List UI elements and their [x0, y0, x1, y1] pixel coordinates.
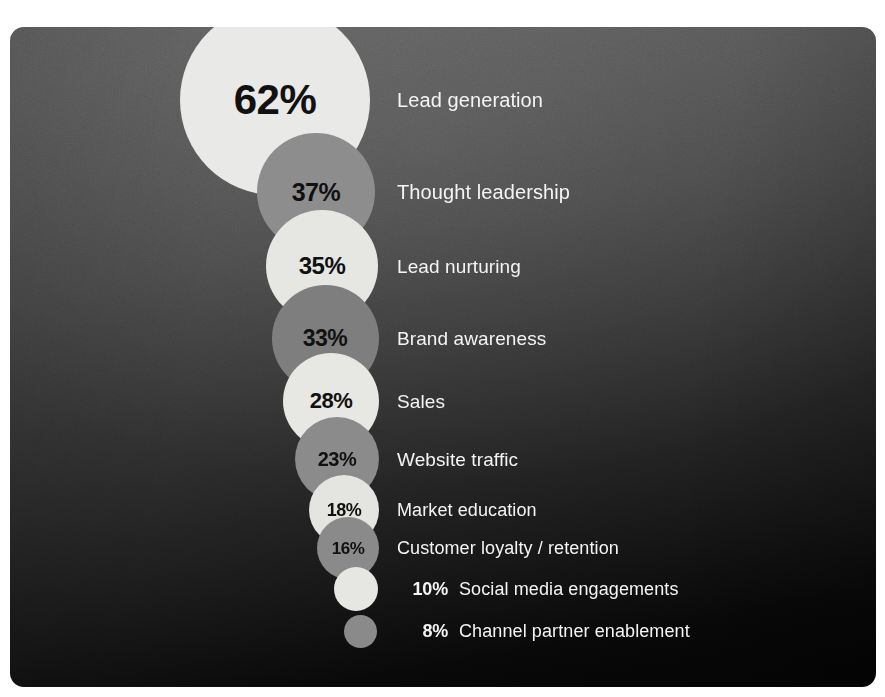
- bubble-value-label: 28%: [310, 390, 353, 412]
- chart-panel: 62%Lead generation37%Thought leadership3…: [10, 27, 876, 687]
- bubble-value-label: 37%: [292, 180, 341, 205]
- category-label: Market education: [397, 501, 537, 519]
- category-label: Website traffic: [397, 450, 518, 469]
- category-label: Channel partner enablement: [459, 622, 690, 640]
- category-label: Lead generation: [397, 90, 543, 110]
- bubble: [344, 615, 377, 648]
- category-label: Brand awareness: [397, 329, 546, 348]
- chart-screenshot: 62%Lead generation37%Thought leadership3…: [0, 0, 885, 697]
- bubble-value-label: 33%: [303, 327, 348, 350]
- category-label: Social media engagements: [459, 580, 679, 598]
- bubble-value-label: 35%: [299, 254, 346, 278]
- bubble-value-label-outside: 10%: [413, 580, 448, 598]
- bubble: [334, 567, 378, 611]
- bubble-value-label: 16%: [332, 540, 365, 557]
- bubble-value-label: 62%: [234, 79, 317, 121]
- category-label: Customer loyalty / retention: [397, 539, 619, 557]
- category-label: Thought leadership: [397, 182, 570, 202]
- bubble-chart: 62%Lead generation37%Thought leadership3…: [10, 27, 876, 687]
- category-label: Sales: [397, 392, 445, 411]
- bubble-value-label-outside: 8%: [422, 622, 448, 640]
- bubble-value-label: 23%: [318, 449, 357, 469]
- category-label: Lead nurturing: [397, 257, 521, 276]
